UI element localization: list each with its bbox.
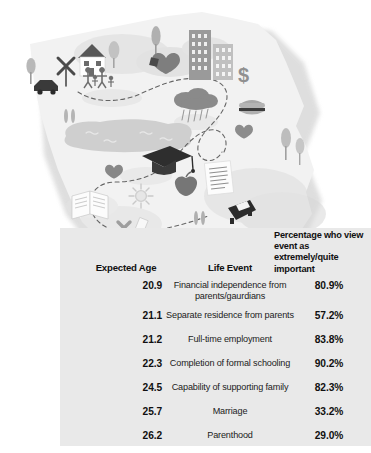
cell-percentage: 83.8% [298,334,360,345]
infographic-page: $ [0,0,371,453]
cell-expected-age: 20.9 [80,280,162,291]
cell-life-event: Full-time employment [166,334,294,345]
table-row: 24.5 Capability of supporting family 82.… [60,382,371,406]
cell-life-event: Completion of formal schooling [166,358,294,369]
cell-expected-age: 22.3 [80,358,162,369]
cell-life-event: Financial independence from parents/gaur… [166,280,294,303]
cell-expected-age: 21.1 [80,310,162,321]
life-events-table: Expected Age Life Event Percentage who v… [60,228,371,446]
cell-expected-age: 25.7 [80,406,162,417]
table-row: 26.2 Parenthood 29.0% [60,430,371,453]
cell-life-event: Separate residence from parents [166,310,294,321]
cell-percentage: 80.9% [298,280,360,291]
table-row: 25.7 Marriage 33.2% [60,406,371,430]
column-header-expected-age: Expected Age [80,262,172,273]
table-row: 21.2 Full-time employment 83.8% [60,334,371,358]
cell-percentage: 33.2% [298,406,360,417]
document-icon [204,161,233,196]
cell-percentage: 82.3% [298,382,360,393]
table-body: 20.9 Financial independence from parents… [60,280,371,453]
table-row: 22.3 Completion of formal schooling 90.2… [60,358,371,382]
dollar-sign-icon: $ [238,64,249,86]
cell-expected-age: 21.2 [80,334,162,345]
cell-life-event: Capability of supporting family [166,382,294,393]
column-header-percentage: Percentage who view event as extremely/q… [274,230,370,275]
cell-life-event: Marriage [166,406,294,417]
sun-icon [129,184,153,208]
cell-life-event: Parenthood [166,430,294,441]
cell-expected-age: 26.2 [80,430,162,441]
life-map-illustration: $ [0,0,371,262]
table-header-row: Expected Age Life Event Percentage who v… [60,228,371,278]
table-row: 21.1 Separate residence from parents 57.… [60,310,371,334]
cell-percentage: 90.2% [298,358,360,369]
column-header-life-event: Life Event [180,262,280,273]
table-row: 20.9 Financial independence from parents… [60,280,371,310]
cell-percentage: 29.0% [298,430,360,441]
cell-expected-age: 24.5 [80,382,162,393]
cell-percentage: 57.2% [298,310,360,321]
